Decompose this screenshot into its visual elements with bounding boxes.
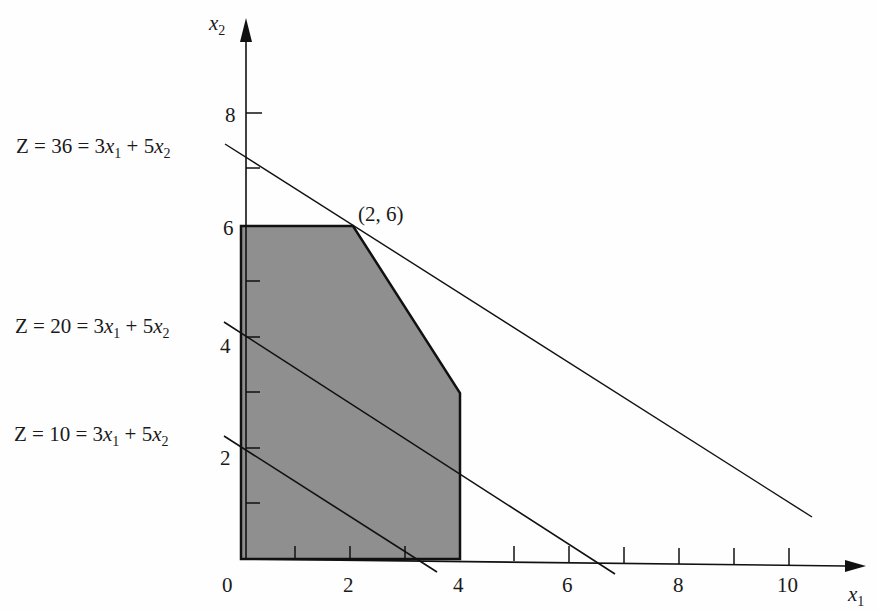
y-tick-label: 8: [225, 103, 236, 127]
x-axis-arrow-icon: [845, 560, 866, 572]
y-axis-arrow-icon: [240, 18, 252, 42]
optimal-point-label: (2, 6): [358, 202, 404, 226]
y-tick-label: 6: [223, 216, 234, 240]
x-tick-label: 8: [673, 573, 684, 597]
objective-label-z36: Z = 36 = 3x1 + 5x2: [16, 134, 171, 161]
x-tick-label: 2: [343, 573, 354, 597]
feasible-region: [241, 226, 460, 559]
x-tick-label: 10: [777, 573, 798, 597]
x-axis: [241, 559, 845, 566]
y-axis-label: x2: [208, 11, 225, 38]
x-tick-label: 0: [222, 573, 233, 597]
y-tick-label: 4: [220, 334, 231, 358]
x-axis-label: x1: [847, 582, 864, 609]
x-tick-label: 4: [453, 573, 464, 597]
lp-graph: 0 2 4 6 8 10 2 4 6 8 x2 x1 Z = 36 = 3x1 …: [0, 0, 879, 611]
x-tick-label: 6: [562, 573, 573, 597]
objective-label-z10: Z = 10 = 3x1 + 5x2: [14, 422, 169, 449]
y-tick-label: 2: [220, 446, 231, 470]
objective-label-z20: Z = 20 = 3x1 + 5x2: [15, 314, 170, 341]
